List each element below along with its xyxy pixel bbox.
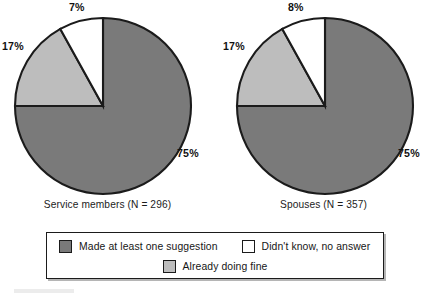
pie-caption-spouses: Spouses (N = 357) (216, 199, 431, 210)
pie-chart-spouses: 8% 17% 75% Spouses (N = 357) (216, 0, 431, 222)
legend-swatch-light-gray-icon (163, 260, 176, 273)
scan-artifact (14, 289, 74, 293)
pie-caption-service-members: Service members (N = 296) (0, 199, 215, 210)
slice-label-already-fine: 17% (223, 40, 245, 52)
legend-item-made-suggestion: Made at least one suggestion (59, 240, 218, 253)
slice-label-didnt-know: 8% (288, 1, 304, 13)
legend-label-didnt-know: Didn't know, no answer (262, 241, 371, 252)
legend-row-bottom: Already doing fine (47, 256, 383, 277)
slice-label-already-fine: 17% (2, 40, 24, 52)
legend-item-didnt-know: Didn't know, no answer (242, 240, 371, 253)
legend-row-top: Made at least one suggestion Didn't know… (47, 236, 383, 257)
legend-label-made-suggestion: Made at least one suggestion (79, 241, 218, 252)
legend-swatch-dark-gray-icon (59, 240, 72, 253)
pie-chart-figure: 7% 17% 75% Service members (N = 296) 8% … (0, 0, 431, 299)
pie-svg-spouses (216, 0, 431, 200)
pie-chart-service-members: 7% 17% 75% Service members (N = 296) (0, 0, 215, 222)
slice-label-made-suggestion: 75% (177, 147, 199, 159)
legend-swatch-white-icon (242, 240, 255, 253)
legend-item-already-fine: Already doing fine (163, 260, 268, 273)
pie-svg-service-members (0, 0, 215, 200)
slice-label-didnt-know: 7% (69, 1, 85, 13)
chart-legend: Made at least one suggestion Didn't know… (46, 232, 384, 279)
slice-label-made-suggestion: 75% (398, 147, 420, 159)
legend-label-already-fine: Already doing fine (183, 261, 268, 272)
